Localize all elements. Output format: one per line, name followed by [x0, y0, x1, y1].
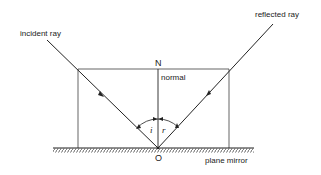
plane-mirror [53, 148, 254, 153]
angle-r-arc [158, 119, 178, 127]
point-o-dot [157, 147, 160, 150]
incident-ray-label: incident ray [20, 29, 61, 38]
angle-i-label: i [150, 125, 153, 135]
construction-box [78, 69, 229, 148]
point-of-incidence-label: O [155, 153, 162, 163]
incident-ray [47, 40, 158, 148]
reflected-ray-label: reflected ray [255, 10, 299, 19]
reflected-ray-arrow-icon [206, 90, 211, 96]
angle-r-label: r [162, 125, 166, 135]
angle-i-top-arrow-icon [153, 117, 158, 121]
reflection-diagram: incident ray reflected ray N normal O pl… [0, 0, 321, 175]
normal-label: normal [161, 73, 186, 82]
angle-r-top-arrow-icon [159, 117, 164, 121]
reflected-ray [158, 24, 273, 148]
normal-point-label: N [155, 58, 162, 68]
plane-mirror-label: plane mirror [205, 156, 248, 165]
